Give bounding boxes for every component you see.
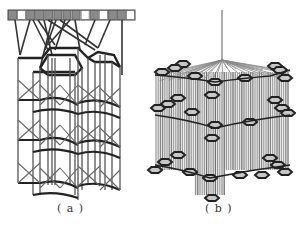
- hex-cell: [155, 69, 169, 75]
- top-input-bar: [8, 10, 135, 20]
- top-bar-cell: [45, 11, 53, 20]
- top-bar-cell: [90, 11, 98, 20]
- hex-cell: [205, 92, 219, 98]
- top-bar-cell: [63, 11, 71, 20]
- top-bar-cell: [108, 11, 116, 20]
- top-bar-cell: [126, 11, 134, 20]
- top-bar-cell: [54, 11, 62, 20]
- hex-cell: [205, 195, 219, 201]
- hex-cell: [151, 105, 165, 111]
- hex-cell: [268, 97, 282, 103]
- top-bar-cell: [27, 11, 35, 20]
- hex-cell: [205, 135, 219, 141]
- hex-cell: [148, 167, 162, 173]
- hex-cell: [185, 109, 199, 115]
- hex-cell: [278, 75, 292, 81]
- top-bar-cell: [72, 11, 80, 20]
- hex-cell: [263, 155, 277, 161]
- top-bar-cell: [99, 11, 107, 20]
- figure: ( a ) ( b ): [0, 0, 296, 229]
- hex-cell: [171, 152, 185, 158]
- hex-cell: [168, 65, 182, 71]
- panel-a-caption: ( a ): [57, 202, 84, 215]
- top-bar-cell: [18, 11, 26, 20]
- hex-cell: [278, 169, 292, 175]
- panel-b-caption: ( b ): [205, 202, 233, 215]
- panel-a-diagram: [0, 0, 296, 229]
- top-bar-cell: [81, 11, 89, 20]
- hex-cell: [171, 95, 185, 101]
- top-bar-cell: [36, 11, 44, 20]
- top-bar-cell: [117, 11, 125, 20]
- hex-cell: [158, 159, 172, 165]
- top-bar-cell: [9, 11, 17, 20]
- hex-cell: [255, 172, 269, 178]
